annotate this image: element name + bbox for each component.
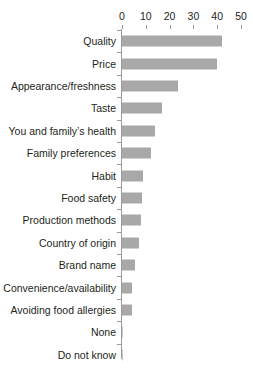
- bar: [122, 237, 139, 248]
- bar-row: Do not know: [0, 344, 253, 366]
- bar: [122, 260, 135, 271]
- category-label: Do not know: [58, 349, 116, 361]
- category-label: Family preferences: [27, 147, 116, 159]
- bar-row: Habit: [0, 164, 253, 186]
- category-label: You and family’s health: [9, 125, 116, 137]
- category-label: Quality: [83, 35, 116, 47]
- y-tick-mark: [117, 299, 121, 300]
- y-tick-mark: [117, 209, 121, 210]
- bar-row: Convenience/availability: [0, 276, 253, 298]
- x-tick-mark: [193, 25, 194, 29]
- bar-row: You and family’s health: [0, 120, 253, 142]
- plot-area: QualityPriceAppearance/freshnessTasteYou…: [0, 29, 253, 365]
- y-tick-mark: [117, 321, 121, 322]
- category-label: Convenience/availability: [3, 282, 116, 294]
- bar: [122, 170, 143, 181]
- bar: [122, 215, 141, 226]
- y-tick-mark: [117, 276, 121, 277]
- x-tick-label: 10: [140, 10, 152, 22]
- bar: [122, 80, 178, 91]
- bar-row: Family preferences: [0, 142, 253, 164]
- bar-chart: 01020304050 QualityPriceAppearance/fresh…: [0, 0, 253, 370]
- y-tick-mark: [117, 187, 121, 188]
- bar-row: Appearance/freshness: [0, 75, 253, 97]
- y-tick-mark: [117, 344, 121, 345]
- category-label: Taste: [91, 102, 116, 114]
- category-label: Brand name: [59, 259, 116, 271]
- category-label: Production methods: [23, 214, 116, 226]
- bar: [122, 103, 162, 114]
- bar: [122, 327, 123, 338]
- bar: [122, 58, 217, 69]
- y-tick-mark: [117, 254, 121, 255]
- x-tick-mark: [217, 25, 218, 29]
- x-tick-label: 30: [188, 10, 200, 22]
- y-tick-mark: [117, 30, 121, 31]
- bar: [122, 282, 132, 293]
- y-tick-mark: [117, 97, 121, 98]
- bar-row: Production methods: [0, 209, 253, 231]
- category-label: Price: [92, 58, 116, 70]
- bar: [122, 125, 155, 136]
- category-label: Habit: [91, 170, 116, 182]
- bar-row: Food safety: [0, 187, 253, 209]
- x-tick-mark: [122, 25, 123, 29]
- x-axis-tick-labels: 01020304050: [0, 10, 253, 24]
- bar-row: None: [0, 321, 253, 343]
- bar-row: Taste: [0, 97, 253, 119]
- category-label: Food safety: [61, 192, 116, 204]
- x-tick-label: 0: [119, 10, 125, 22]
- x-tick-mark: [170, 25, 171, 29]
- bar-row: Brand name: [0, 254, 253, 276]
- y-tick-mark: [117, 164, 121, 165]
- x-tick-mark: [146, 25, 147, 29]
- category-label: Appearance/freshness: [11, 80, 116, 92]
- bar: [122, 192, 142, 203]
- y-tick-mark: [117, 120, 121, 121]
- y-tick-mark: [117, 142, 121, 143]
- x-tick-label: 40: [211, 10, 223, 22]
- bar: [122, 148, 151, 159]
- x-tick-label: 50: [235, 10, 247, 22]
- bar-row: Country of origin: [0, 232, 253, 254]
- x-tick-label: 20: [164, 10, 176, 22]
- bar-row: Quality: [0, 30, 253, 52]
- x-tick-mark: [241, 25, 242, 29]
- bar: [122, 36, 222, 47]
- y-tick-mark: [117, 52, 121, 53]
- bar: [122, 304, 132, 315]
- y-tick-mark: [117, 75, 121, 76]
- category-label: Country of origin: [39, 237, 116, 249]
- y-tick-mark: [117, 232, 121, 233]
- category-label: Avoiding food allergies: [11, 304, 116, 316]
- category-label: None: [91, 326, 116, 338]
- bar-row: Price: [0, 52, 253, 74]
- bar: [122, 349, 123, 360]
- bar-row: Avoiding food allergies: [0, 299, 253, 321]
